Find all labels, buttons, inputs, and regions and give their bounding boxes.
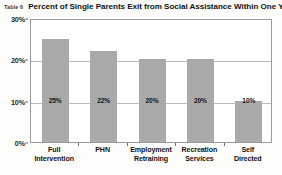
- x-axis-category-label: SelfDirected: [224, 146, 272, 165]
- plot-area: 25%22%20%20%10%: [30, 19, 272, 143]
- x-axis-labels: FullInterventionPHNEmploymentRetrainingR…: [30, 146, 272, 174]
- bar: 20%: [139, 59, 166, 142]
- x-axis-category-label: PHN: [78, 146, 126, 155]
- x-axis-category-label: EmploymentRetraining: [127, 146, 175, 165]
- x-axis-label-line: Full: [48, 146, 60, 154]
- bar-value-label: 20%: [146, 97, 159, 104]
- x-axis-category-label: FullIntervention: [30, 146, 78, 165]
- x-axis-label-line: Intervention: [34, 155, 73, 163]
- bar: 20%: [187, 59, 214, 142]
- figure-caption: Table 6 Percent of Single Parents Exit f…: [4, 2, 278, 15]
- x-axis-label-line: PHN: [95, 146, 110, 154]
- y-axis-tick-label: 30%: [11, 15, 25, 24]
- x-axis-label-line: Services: [185, 155, 213, 163]
- bar: 10%: [235, 101, 262, 142]
- bar-value-label: 10%: [242, 97, 255, 104]
- bar: 22%: [90, 51, 117, 142]
- bar: 25%: [42, 39, 69, 142]
- y-axis-tick-label: 10%: [11, 97, 25, 106]
- y-axis-tick-mark: [25, 19, 28, 20]
- x-axis-label-line: Recreation: [182, 146, 218, 154]
- caption-title: Percent of Single Parents Exit from Soci…: [28, 2, 282, 11]
- bar-value-label: 20%: [194, 97, 207, 104]
- y-axis-tick-mark: [25, 143, 28, 144]
- bar-value-label: 22%: [97, 97, 110, 104]
- y-axis-tick-mark: [25, 60, 28, 61]
- caption-tag: Table 6: [4, 4, 23, 10]
- y-axis-tick-label: 20%: [11, 56, 25, 65]
- y-axis-tick-mark: [25, 101, 28, 102]
- x-axis-label-line: Employment: [130, 146, 172, 154]
- bar-value-label: 25%: [49, 97, 62, 104]
- x-axis-label-line: Directed: [234, 155, 262, 163]
- x-axis-label-line: Retraining: [134, 155, 168, 163]
- x-axis-label-line: Self: [241, 146, 254, 154]
- y-axis-tick-label: 0%: [15, 139, 25, 148]
- x-axis-category-label: RecreationServices: [175, 146, 223, 165]
- figure-container: Table 6 Percent of Single Parents Exit f…: [0, 0, 282, 175]
- y-axis: 0%10%20%30%: [0, 19, 28, 143]
